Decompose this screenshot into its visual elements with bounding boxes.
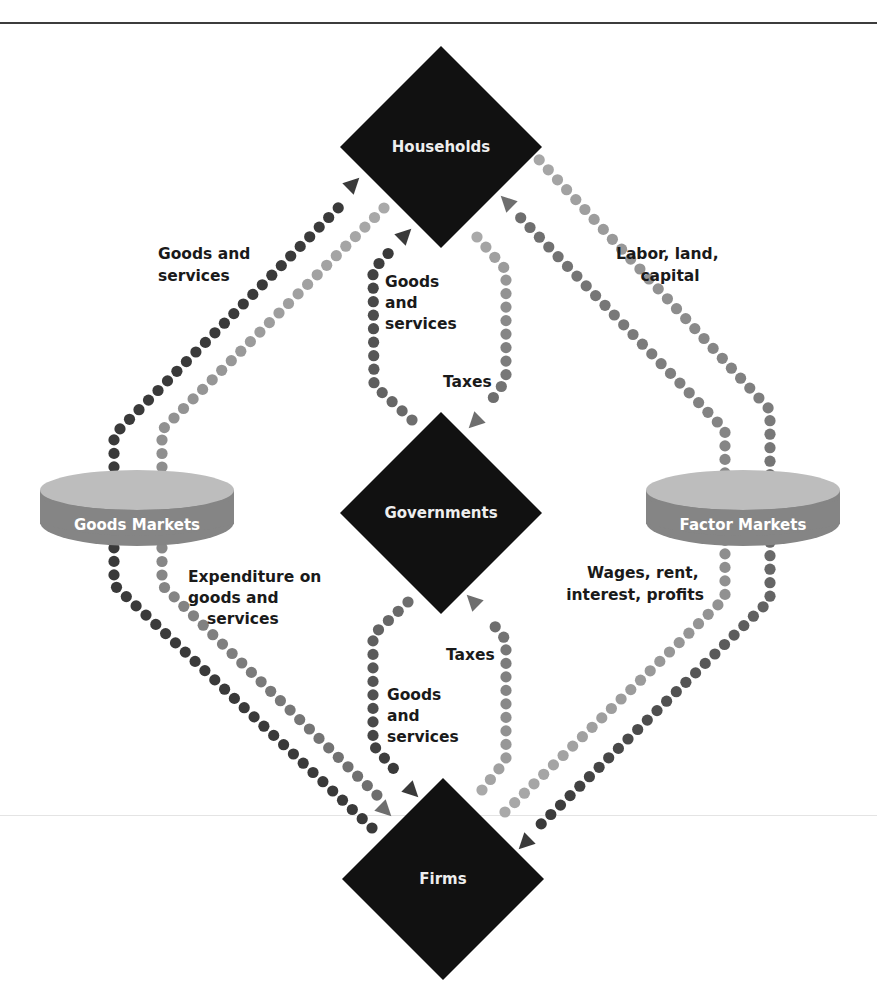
flow-dot xyxy=(625,684,636,695)
flow-dot xyxy=(350,231,361,242)
flow-dot xyxy=(500,671,511,682)
flow-dot xyxy=(378,202,389,213)
flow-dot xyxy=(622,733,633,744)
flow-dot xyxy=(500,356,511,367)
flow-dot xyxy=(236,657,247,668)
flow-dot xyxy=(635,675,646,686)
flow-dot xyxy=(753,392,764,403)
flow-dot xyxy=(558,750,569,761)
label-goods-and-services-to-households: Goods and services xyxy=(158,245,256,285)
flow-dot xyxy=(254,327,265,338)
flow-dot xyxy=(368,283,379,294)
flow-dot xyxy=(500,288,511,299)
flow-dot xyxy=(571,271,582,282)
flow-dot xyxy=(368,364,379,375)
flow-dot xyxy=(700,658,711,669)
flow-dot xyxy=(169,591,180,602)
flow-dot xyxy=(266,270,277,281)
flow-dot xyxy=(238,298,249,309)
flow-dot xyxy=(587,722,598,733)
flow-dot xyxy=(379,753,390,764)
flow-dot xyxy=(133,404,144,415)
flow-dot xyxy=(256,676,267,687)
flow-dot xyxy=(712,416,723,427)
flow-dot xyxy=(370,742,381,753)
flow-dot xyxy=(285,250,296,261)
flow-dot xyxy=(662,293,673,304)
flow-dot xyxy=(493,763,504,774)
flow-dot xyxy=(609,309,620,320)
flow-dot xyxy=(367,269,378,280)
flow-dot xyxy=(245,336,256,347)
flow-dot xyxy=(528,778,539,789)
flow-dot xyxy=(719,454,730,465)
flow-dot xyxy=(590,290,601,301)
flow-dot xyxy=(500,315,511,326)
flow-dot xyxy=(764,429,775,440)
flow-dot xyxy=(368,350,379,361)
flow-dot xyxy=(406,414,417,425)
flow-dot xyxy=(207,629,218,640)
flow-dot xyxy=(500,369,511,380)
flow-dot xyxy=(654,656,665,667)
flow-dot xyxy=(500,685,511,696)
flow-dot xyxy=(143,395,154,406)
flow-dot xyxy=(719,575,730,586)
flow-dot xyxy=(674,637,685,648)
flow-dot xyxy=(764,564,775,575)
flow-dot xyxy=(162,375,173,386)
label-gov-goods-and-services-upper: Goods and services xyxy=(385,273,457,333)
flow-dot xyxy=(545,809,556,820)
flow-dot xyxy=(156,556,167,567)
flow-dot xyxy=(671,303,682,314)
flow-dot xyxy=(637,339,648,350)
flow-dot xyxy=(239,702,250,713)
flow-dot xyxy=(709,648,720,659)
flow-dot xyxy=(485,774,496,785)
flow-dot xyxy=(367,703,378,714)
flow-dot xyxy=(719,548,730,559)
flow-dot xyxy=(680,313,691,324)
flow-dot xyxy=(488,392,499,403)
flow-dot xyxy=(295,241,306,252)
flow-dot xyxy=(366,822,377,833)
flow-dot xyxy=(367,662,378,673)
flow-dot xyxy=(594,762,605,773)
flow-dot xyxy=(561,184,572,195)
flow-dot xyxy=(209,327,220,338)
flow-dot xyxy=(671,686,682,697)
label-taxes-lower: Taxes xyxy=(446,646,495,664)
flow-dot xyxy=(555,800,566,811)
flow-dot xyxy=(288,748,299,759)
flow-dot xyxy=(613,743,624,754)
flow-dot xyxy=(471,231,482,242)
governments-node: Governments xyxy=(340,412,542,614)
flow-dot xyxy=(371,790,382,801)
flow-dot xyxy=(200,337,211,348)
circular-flow-diagram: Goods Markets Factor Markets Households … xyxy=(0,0,877,998)
flow-dot xyxy=(500,644,511,655)
flow-dot xyxy=(703,609,714,620)
flow-dot xyxy=(304,231,315,242)
flow-dot xyxy=(302,279,313,290)
flow-dot xyxy=(562,261,573,272)
flow-dot xyxy=(227,648,238,659)
flow-dot xyxy=(763,402,774,413)
flow-dot xyxy=(209,674,220,685)
flow-dot xyxy=(347,804,358,815)
flow-dot xyxy=(744,383,755,394)
flow-dot xyxy=(664,646,675,657)
flow-dot xyxy=(171,366,182,377)
flow-dot xyxy=(362,780,373,791)
flow-dot xyxy=(357,813,368,824)
flow-dot xyxy=(498,632,509,643)
flow-dot xyxy=(764,550,775,561)
flow-dot xyxy=(258,721,269,732)
flow-dot xyxy=(496,381,507,392)
flow-dot xyxy=(368,296,379,307)
arrowhead-icon xyxy=(401,780,424,803)
flow-dot xyxy=(500,658,511,669)
flow-dot xyxy=(140,610,151,621)
flow-dot xyxy=(331,250,342,261)
arrowhead-icon xyxy=(461,589,484,612)
